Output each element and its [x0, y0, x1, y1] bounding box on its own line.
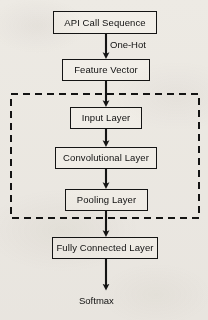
node-label-api-call-sequence: API Call Sequence — [64, 18, 145, 28]
diagram-canvas: API Call Sequence Feature Vector Input L… — [0, 0, 208, 320]
node-pooling-layer: Pooling Layer — [65, 189, 148, 211]
edge-label-one-hot: One-Hot — [110, 40, 146, 50]
node-feature-vector: Feature Vector — [62, 59, 150, 81]
node-convolutional-layer: Convolutional Layer — [55, 147, 157, 169]
node-input-layer: Input Layer — [70, 107, 142, 129]
node-label-fully-connected-layer: Fully Connected Layer — [56, 243, 153, 253]
node-label-convolutional-layer: Convolutional Layer — [63, 153, 149, 163]
node-label-input-layer: Input Layer — [82, 113, 131, 123]
node-api-call-sequence: API Call Sequence — [53, 11, 157, 34]
node-label-feature-vector: Feature Vector — [74, 65, 138, 75]
node-label-pooling-layer: Pooling Layer — [77, 195, 136, 205]
node-fully-connected-layer: Fully Connected Layer — [52, 237, 158, 259]
terminal-label-softmax: Softmax — [79, 296, 114, 306]
